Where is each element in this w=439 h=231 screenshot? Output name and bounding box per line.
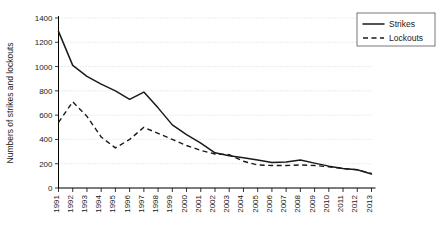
gridlines [59,18,372,188]
y-axis-title: Numbers of strikes and lockouts [5,43,15,164]
y-tick-label: 0 [48,184,53,193]
x-tick-label: 2007 [279,194,288,212]
x-axis-ticks: 1991199219931994199519961997199819992000… [52,188,374,213]
x-tick-label: 2008 [293,194,302,212]
chart-container: 0200400600800100012001400 19911992199319… [0,0,439,231]
legend-label-strikes: Strikes [389,19,415,29]
x-tick-label: 2005 [251,194,260,212]
series-line-lockouts [59,102,372,174]
y-tick-label: 1400 [35,14,53,23]
axes [59,16,376,188]
line-chart: 0200400600800100012001400 19911992199319… [0,0,439,231]
x-tick-label: 2001 [194,194,203,212]
x-tick-label: 1993 [80,194,89,212]
x-tick-label: 2011 [336,194,345,212]
x-tick-label: 2009 [308,194,317,212]
chart-legend: StrikesLockouts [357,13,435,46]
x-tick-label: 2002 [208,194,217,212]
data-series [59,31,372,174]
x-tick-label: 2003 [222,194,231,212]
y-axis-title-label: Numbers of strikes and lockouts [5,43,15,164]
x-tick-label: 1997 [137,194,146,212]
y-tick-label: 600 [39,111,53,120]
x-tick-label: 1995 [108,194,117,212]
y-tick-label: 1000 [35,63,53,72]
x-tick-label: 1998 [151,194,160,212]
y-tick-label: 200 [39,160,53,169]
x-tick-label: 2000 [180,194,189,212]
x-tick-label: 2012 [350,194,359,212]
series-line-strikes [59,31,372,174]
y-tick-label: 400 [39,135,53,144]
x-tick-label: 1994 [94,194,103,212]
y-tick-label: 1200 [35,38,53,47]
x-tick-label: 1992 [66,194,75,212]
x-tick-label: 2004 [236,194,245,212]
x-tick-label: 2006 [265,194,274,212]
x-tick-label: 2010 [322,194,331,212]
x-tick-label: 1991 [52,194,61,212]
y-axis-ticks: 0200400600800100012001400 [35,14,59,193]
y-tick-label: 800 [39,87,53,96]
x-tick-label: 1996 [123,194,132,212]
x-tick-label: 2013 [365,194,374,212]
legend-label-lockouts: Lockouts [389,33,423,43]
x-tick-label: 1999 [165,194,174,212]
